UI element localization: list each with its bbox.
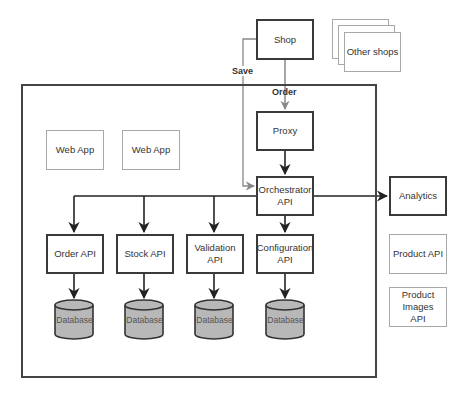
node-other-shops[interactable]: Other shops	[344, 32, 401, 72]
edge-label-order: Order	[272, 87, 297, 97]
node-proxy[interactable]: Proxy	[256, 111, 314, 151]
database-order-label: Database	[55, 315, 94, 325]
node-orchestrator-api[interactable]: Orchestrator API	[256, 176, 314, 216]
edge-label-save: Save	[232, 66, 253, 76]
node-other-shops-label: Other shops	[347, 46, 399, 58]
node-configuration-api[interactable]: Configuration API	[256, 234, 314, 274]
database-validation[interactable]: Database	[195, 300, 234, 340]
node-product-api-label: Product API	[393, 248, 443, 260]
node-product-images-api-label: Product Images API	[390, 289, 446, 325]
node-shop-label: Shop	[274, 34, 296, 46]
node-validation-api-label: Validation API	[188, 242, 242, 266]
node-order-api-label: Order API	[54, 248, 96, 260]
node-proxy-label: Proxy	[273, 125, 297, 137]
node-product-api[interactable]: Product API	[389, 234, 447, 274]
node-analytics-label: Analytics	[399, 190, 437, 202]
database-stock[interactable]: Database	[125, 300, 164, 340]
database-validation-label: Database	[195, 315, 234, 325]
node-validation-api[interactable]: Validation API	[186, 234, 244, 274]
database-configuration[interactable]: Database	[266, 300, 305, 340]
node-web-app-2-label: Web App	[132, 144, 170, 156]
node-web-app-1[interactable]: Web App	[46, 130, 104, 170]
node-configuration-api-label: Configuration API	[257, 242, 314, 266]
node-analytics[interactable]: Analytics	[389, 176, 447, 216]
database-stock-label: Database	[125, 315, 164, 325]
database-order[interactable]: Database	[55, 300, 94, 340]
node-orchestrator-api-label: Orchestrator API	[258, 184, 312, 208]
node-web-app-1-label: Web App	[56, 144, 94, 156]
node-product-images-api[interactable]: Product Images API	[389, 287, 447, 327]
database-configuration-label: Database	[266, 315, 305, 325]
node-stock-api-label: Stock API	[124, 248, 165, 260]
node-order-api[interactable]: Order API	[46, 234, 104, 274]
node-shop[interactable]: Shop	[256, 19, 314, 60]
node-web-app-2[interactable]: Web App	[122, 130, 180, 170]
node-stock-api[interactable]: Stock API	[116, 234, 174, 274]
